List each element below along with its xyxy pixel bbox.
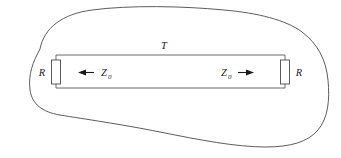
resistor-left-body <box>52 60 61 84</box>
resistor-right-body <box>281 60 290 84</box>
impedance-left-symbol: Z <box>101 67 107 78</box>
impedance-left-label: Z 0 <box>101 67 112 81</box>
resistor-left <box>52 60 61 84</box>
impedance-right-subscript: 0 <box>228 73 232 81</box>
resistor-right <box>281 60 290 84</box>
arrow-right-icon <box>238 70 254 76</box>
impedance-left-subscript: 0 <box>108 73 112 81</box>
resistor-right-label: R <box>295 67 303 78</box>
resistor-left-label: R <box>38 67 46 78</box>
figure-container: T R R Z 0 Z 0 <box>0 0 341 158</box>
impedance-right-label: Z 0 <box>221 67 232 81</box>
circuit-diagram-svg: T R R Z 0 Z 0 <box>0 0 341 158</box>
impedance-right-symbol: Z <box>221 67 227 78</box>
transmission-line-label: T <box>161 40 168 51</box>
arrow-left-icon <box>78 70 94 76</box>
